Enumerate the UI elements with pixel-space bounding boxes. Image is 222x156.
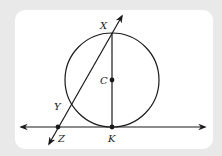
label-c: C — [100, 75, 108, 86]
label-k: K — [107, 133, 116, 144]
geometry-diagram: X C Y Z K — [0, 0, 222, 156]
point-z — [56, 125, 61, 130]
label-z: Z — [57, 133, 66, 144]
label-x: X — [99, 20, 108, 31]
point-k — [110, 125, 115, 130]
label-y: Y — [54, 101, 62, 112]
point-c — [110, 78, 115, 83]
